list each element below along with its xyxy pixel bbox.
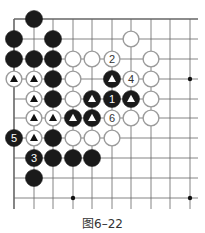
figure-caption: 图6–22 [0,214,205,231]
stones: 241653 [5,10,159,186]
star-point [71,196,75,200]
black-stone: 3 [25,149,42,166]
white-stone [143,110,159,126]
move-number: 4 [128,73,134,85]
white-stone [26,130,42,146]
white-stone: 6 [104,110,120,126]
white-stone [26,91,42,107]
move-number: 5 [11,132,17,144]
white-stone [65,51,81,67]
move-number: 3 [31,152,37,164]
white-stone [6,71,22,87]
go-board: 241653 [0,0,205,212]
white-stone [143,91,159,107]
white-stone [143,51,159,67]
move-number: 1 [109,93,115,105]
white-stone: 2 [104,51,120,67]
black-stone [83,109,100,126]
white-stone [65,91,81,107]
black-stone [5,50,22,67]
black-stone: 5 [5,129,22,146]
white-stone [26,110,42,126]
black-stone [44,70,61,87]
black-stone [25,10,42,27]
black-stone: 1 [103,90,120,107]
star-point [188,77,192,81]
white-stone [84,130,100,146]
black-stone [64,149,81,166]
white-stone [65,130,81,146]
move-number: 6 [109,112,115,124]
black-stone [44,30,61,47]
black-stone [44,129,61,146]
black-stone [64,109,81,126]
black-stone [44,50,61,67]
black-stone [103,70,120,87]
white-stone [84,51,100,67]
white-stone [123,110,139,126]
black-stone [25,50,42,67]
white-stone [45,110,61,126]
black-stone [122,90,139,107]
white-stone [143,71,159,87]
white-stone [65,71,81,87]
black-stone [44,149,61,166]
white-stone: 4 [123,71,139,87]
white-stone [26,71,42,87]
white-stone [104,130,120,146]
black-stone [5,30,22,47]
white-stone [123,31,139,47]
black-stone [44,90,61,107]
black-stone [83,90,100,107]
move-number: 2 [109,53,115,65]
black-stone [25,169,42,186]
black-stone [83,149,100,166]
star-point [188,196,192,200]
